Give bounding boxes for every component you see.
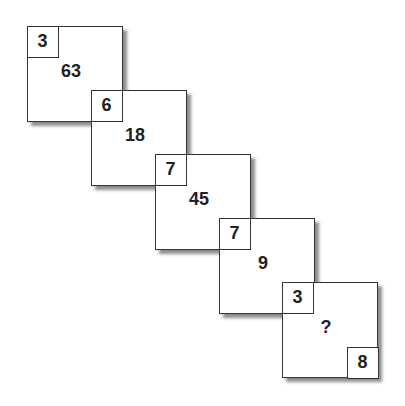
corner-value: 6 [91, 90, 123, 122]
corner-value: 7 [155, 154, 187, 186]
square-5: ? 3 8 [282, 282, 378, 378]
bottom-corner-value: 8 [347, 347, 379, 379]
corner-value: 3 [282, 282, 314, 314]
corner-value: 7 [219, 218, 251, 250]
corner-value: 3 [27, 26, 59, 58]
